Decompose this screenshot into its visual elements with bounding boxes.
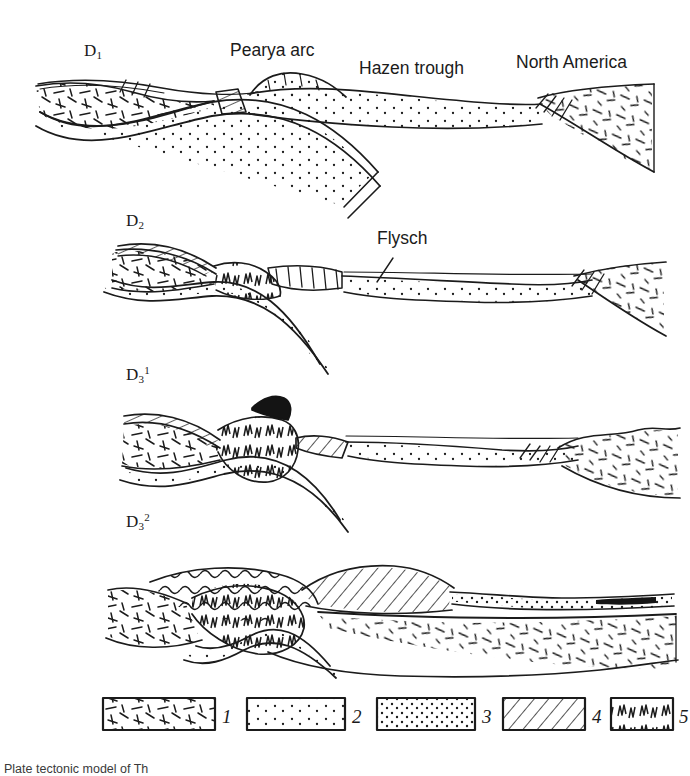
stage-label-d3-1: D31: [126, 364, 150, 385]
stage-label-d2: D2: [126, 211, 144, 231]
panel-d1-art: [36, 73, 654, 218]
legend-number-2: 2: [352, 706, 362, 728]
legend-art: [103, 698, 673, 730]
figure-caption: Plate tectonic model of Th: [4, 762, 148, 776]
figure-root: D1 Pearya arc Hazen trough North America…: [0, 0, 690, 776]
label-north-america: North America: [516, 52, 627, 73]
panel-d2-art: [104, 244, 666, 374]
legend-number-3: 3: [482, 706, 492, 728]
panel-d3-2-art: [106, 566, 678, 678]
label-hazen-trough: Hazen trough: [359, 58, 464, 79]
legend-number-1: 1: [222, 706, 232, 728]
cross-section-artwork: [0, 0, 690, 776]
stage-label-d1: D1: [84, 41, 102, 61]
legend-number-4: 4: [592, 706, 602, 728]
stage-label-d3-2: D32: [126, 511, 150, 532]
legend-number-5: 5: [679, 706, 689, 728]
label-flysch: Flysch: [377, 228, 428, 249]
panel-d3-1-art: [120, 396, 680, 532]
label-pearya-arc: Pearya arc: [230, 40, 315, 61]
